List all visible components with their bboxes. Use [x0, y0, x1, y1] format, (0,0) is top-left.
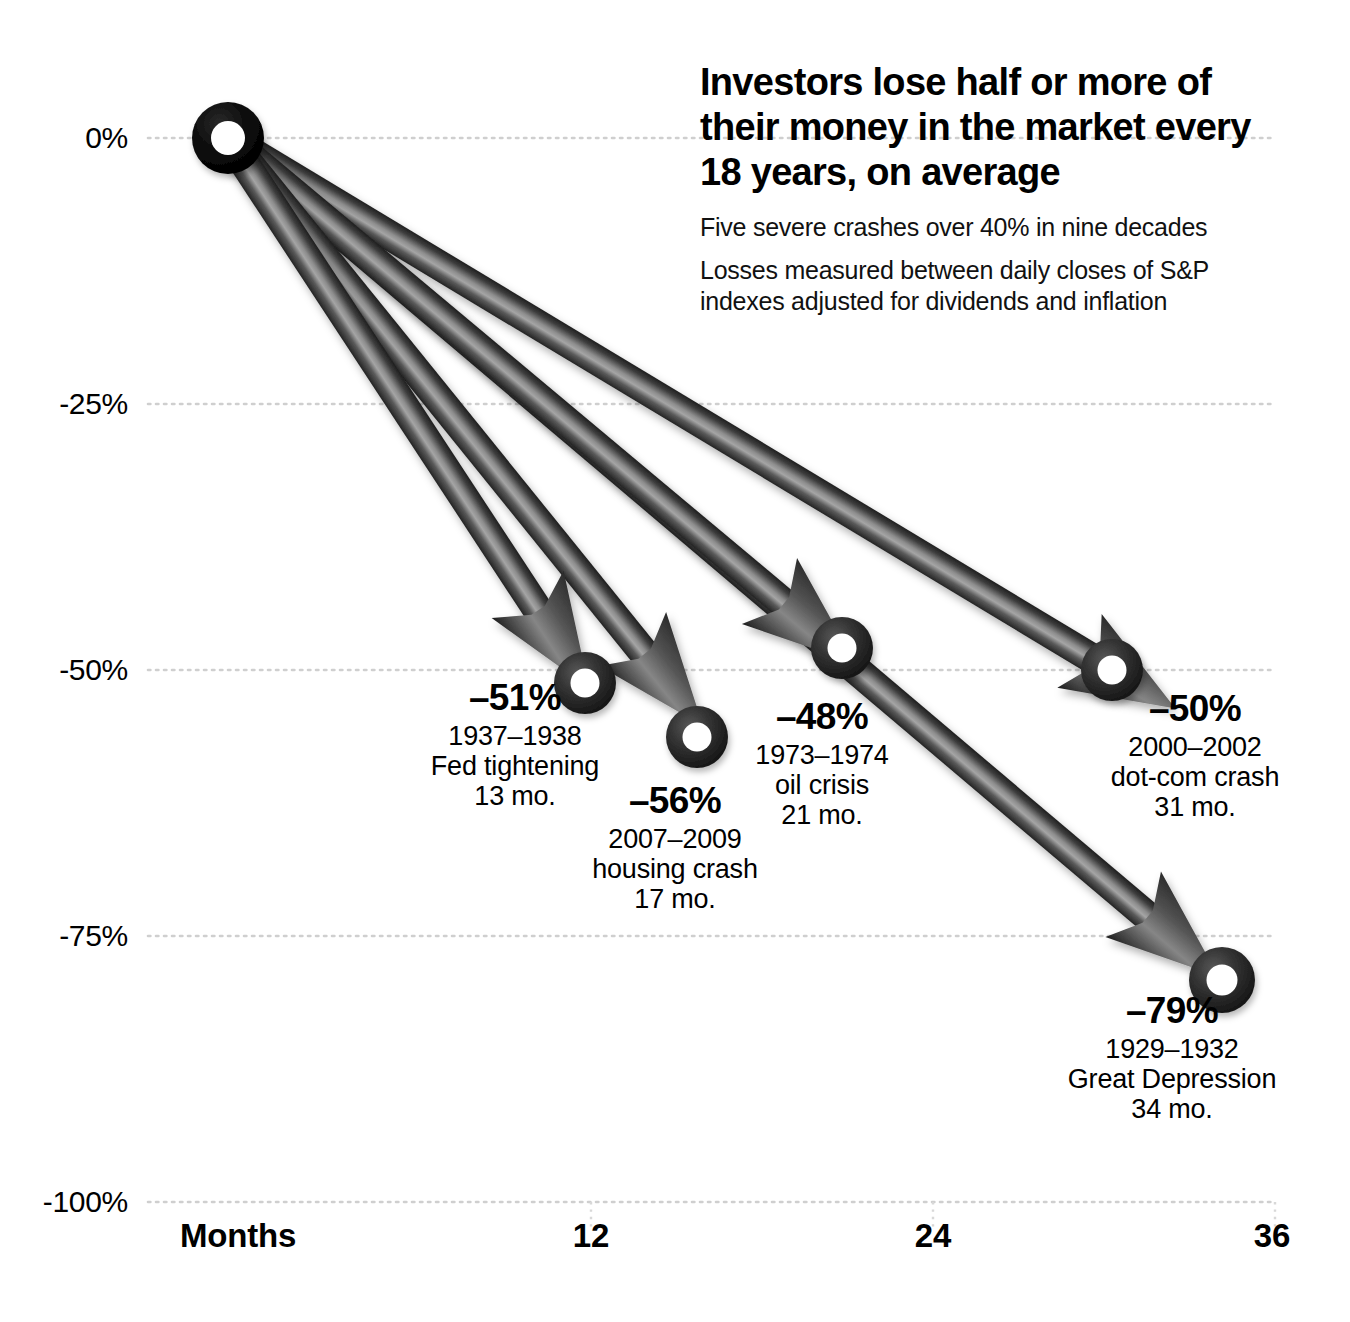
annotation-name-oil-crisis: oil crisis: [736, 770, 908, 800]
annotation-dotcom: –50% 2000–2002 dot-com crash 31 mo.: [1076, 690, 1314, 823]
annotation-years-dotcom: 2000–2002: [1076, 732, 1314, 762]
y-tick-75: -75%: [18, 919, 128, 953]
annotation-duration-housing-crash: 17 mo.: [559, 884, 791, 914]
annotation-name-housing-crash: housing crash: [559, 854, 791, 884]
annotation-years-great-depression: 1929–1932: [1044, 1034, 1300, 1064]
marker-oil-crisis: [811, 617, 873, 679]
annotation-duration-dotcom: 31 mo.: [1076, 792, 1314, 822]
infographic-page: 0% -25% -50% -75% -100% Months 12 24 36 …: [0, 0, 1350, 1322]
annotation-name-fed-tightening: Fed tightening: [398, 751, 632, 781]
y-tick-100: -100%: [5, 1185, 128, 1219]
y-tick-0: 0%: [18, 121, 128, 155]
annotation-pct-dotcom: –50%: [1076, 690, 1314, 727]
subtitle-method: Losses measured between daily closes of …: [700, 255, 1260, 317]
annotation-years-oil-crisis: 1973–1974: [736, 740, 908, 770]
x-tick-12: 12: [541, 1217, 641, 1255]
x-tick-24: 24: [883, 1217, 983, 1255]
annotation-name-dotcom: dot-com crash: [1076, 762, 1314, 792]
annotation-pct-fed-tightening: –51%: [398, 679, 632, 716]
x-axis-title: Months: [180, 1217, 296, 1255]
annotation-years-fed-tightening: 1937–1938: [398, 721, 632, 751]
page-title: Investors lose half or more of their mon…: [700, 60, 1260, 194]
marker-housing-crash: [666, 706, 728, 768]
marker-origin: [192, 102, 264, 174]
annotation-oil-crisis: –48% 1973–1974 oil crisis 21 mo.: [736, 698, 908, 831]
annotation-pct-oil-crisis: –48%: [736, 698, 908, 735]
y-tick-25: -25%: [18, 387, 128, 421]
headline-block: Investors lose half or more of their mon…: [700, 60, 1260, 329]
y-tick-50: -50%: [18, 653, 128, 687]
annotation-name-great-depression: Great Depression: [1044, 1064, 1300, 1094]
annotation-pct-great-depression: –79%: [1044, 992, 1300, 1029]
annotation-duration-oil-crisis: 21 mo.: [736, 800, 908, 830]
annotation-great-depression: –79% 1929–1932 Great Depression 34 mo.: [1044, 992, 1300, 1125]
x-tick-36: 36: [1222, 1217, 1322, 1255]
subtitle-primary: Five severe crashes over 40% in nine dec…: [700, 212, 1260, 243]
annotation-duration-great-depression: 34 mo.: [1044, 1094, 1300, 1124]
